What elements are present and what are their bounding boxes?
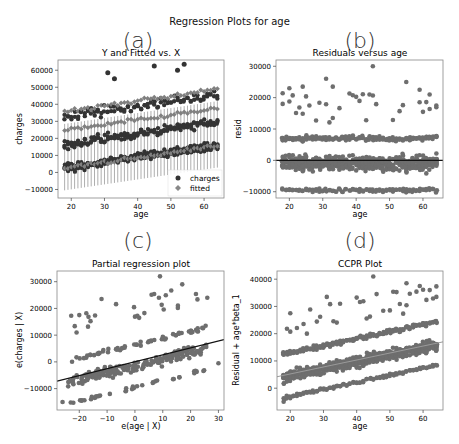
svg-text:30: 30 <box>100 203 109 211</box>
svg-text:60: 60 <box>418 203 427 211</box>
svg-text:30000: 30000 <box>30 278 52 286</box>
panel-b-xlabel: age <box>353 210 368 219</box>
svg-text:40000: 40000 <box>31 101 53 109</box>
panel-d-y-ticks: 400003000020000100000 <box>250 276 277 393</box>
panel-b-plot-area <box>276 64 443 195</box>
svg-text:20000: 20000 <box>31 135 53 143</box>
svg-text:60000: 60000 <box>31 67 53 75</box>
svg-text:50: 50 <box>385 415 394 423</box>
panel-a-y-ticks: 6000050000400003000020000100000−10000 <box>25 67 58 194</box>
svg-text:20: 20 <box>286 415 295 423</box>
panel-d-xlabel: age <box>353 422 368 431</box>
svg-text:30: 30 <box>318 203 327 211</box>
panel-b-ylabel: resid <box>234 119 243 139</box>
svg-text:30000: 30000 <box>250 303 272 311</box>
panel-b-chart: Residuals versus age 3000020000100000−10… <box>230 46 459 221</box>
panel-b-title: Residuals versus age <box>313 48 408 58</box>
panel-a-title: Y and Fitted vs. X <box>101 48 180 58</box>
panel-d-ylabel: Residual + age*beta_1 <box>232 294 241 386</box>
svg-text:0: 0 <box>49 169 53 177</box>
panel-c-ylabel: e(charges | X) <box>15 312 24 368</box>
svg-text:−10000: −10000 <box>24 385 52 393</box>
svg-text:10000: 10000 <box>250 357 272 365</box>
svg-text:30000: 30000 <box>249 63 271 71</box>
panel-d-plot-area <box>277 274 443 404</box>
panel-c-y-ticks: 3000020000100000−10000 <box>24 278 57 393</box>
panel-d-title: CCPR Plot <box>338 259 383 269</box>
svg-text:30000: 30000 <box>31 118 53 126</box>
svg-text:50: 50 <box>166 203 175 211</box>
svg-text:10000: 10000 <box>30 332 52 340</box>
panel-a-xlabel: age <box>134 210 149 219</box>
figure-suptitle: Regression Plots for age <box>0 16 459 27</box>
svg-text:−10000: −10000 <box>25 186 53 194</box>
panel-b-frame <box>276 60 443 198</box>
panel-a-legend: charges fitted <box>168 170 222 196</box>
svg-text:−10: −10 <box>100 415 115 423</box>
svg-text:0: 0 <box>267 157 271 165</box>
svg-text:30: 30 <box>214 415 223 423</box>
panel-d-chart: CCPR Plot 400003000020000100000 20304050… <box>230 256 459 444</box>
svg-text:20: 20 <box>186 415 195 423</box>
legend-fitted-label: fitted <box>190 184 210 193</box>
svg-text:0: 0 <box>48 358 52 366</box>
svg-text:20000: 20000 <box>30 305 52 313</box>
svg-text:60: 60 <box>200 203 209 211</box>
legend-charges-marker-icon <box>176 176 181 181</box>
svg-text:30: 30 <box>319 415 328 423</box>
svg-text:10000: 10000 <box>249 126 271 134</box>
panel-c-chart: Partial regression plot 3000020000100000… <box>0 256 230 444</box>
svg-text:40000: 40000 <box>250 276 272 284</box>
panel-c-title: Partial regression plot <box>92 259 191 269</box>
panel-b-y-ticks: 3000020000100000−10000 <box>243 63 276 196</box>
svg-text:20000: 20000 <box>250 330 272 338</box>
svg-text:10000: 10000 <box>31 152 53 160</box>
svg-text:60: 60 <box>419 415 428 423</box>
panel-c-letter: (c) <box>108 228 168 253</box>
svg-text:50: 50 <box>385 203 394 211</box>
svg-text:50000: 50000 <box>31 84 53 92</box>
svg-text:0: 0 <box>268 385 272 393</box>
panel-c-plot-area <box>57 274 224 405</box>
legend-charges-label: charges <box>190 174 220 183</box>
panel-c-xlabel: e(age | X) <box>121 422 160 431</box>
panel-d-letter: (d) <box>330 228 390 253</box>
svg-text:20: 20 <box>67 203 76 211</box>
svg-text:20000: 20000 <box>249 94 271 102</box>
panel-a-chart: Y and Fitted vs. X 600005000040000300002… <box>0 46 230 221</box>
svg-text:20: 20 <box>285 203 294 211</box>
svg-text:−20: −20 <box>72 415 87 423</box>
svg-text:−10000: −10000 <box>243 188 271 196</box>
panel-a-ylabel: charges <box>15 113 24 145</box>
